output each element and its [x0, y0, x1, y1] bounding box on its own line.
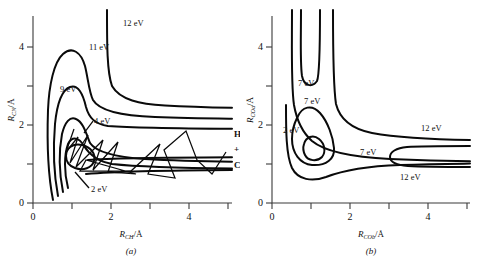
contour-label-7ev-second: 7 eV	[304, 96, 321, 106]
contour-label-11ev: 11 eV	[89, 42, 110, 52]
y-axis-unit: /Å	[245, 96, 255, 106]
x-ticklabel-0: 0	[270, 211, 275, 222]
x-axis-unit: /Å	[375, 229, 385, 239]
x-axis-subscript: COb	[363, 233, 375, 240]
panel-a-svg: 0 2 4 0 2 4	[0, 0, 240, 258]
contour-label-12ev-bottom: 12 eV	[400, 172, 421, 182]
y-ticklabel-4: 4	[19, 41, 24, 52]
contour-11ev	[48, 50, 232, 200]
x-ticklabel-4: 4	[187, 211, 192, 222]
contour-7ev-inner-u	[301, 10, 320, 85]
panel-a-caption: (a)	[126, 246, 137, 256]
panel-a-axis-titles: RCH/Å RCN/Å (a)	[6, 98, 143, 256]
contour-label-12ev-top: 12 eV	[421, 123, 442, 133]
y-ticklabel-2: 2	[19, 119, 24, 130]
leader-line-4ev	[84, 121, 93, 133]
panel-a-contours	[48, 10, 232, 200]
panel-b-caption: (b)	[366, 246, 377, 256]
x-ticklabel-2: 2	[348, 211, 353, 222]
x-axis-label: RCH/Å	[118, 229, 143, 240]
contour-2ev-inner-loop	[303, 137, 324, 161]
y-ticklabel-4: 4	[258, 41, 263, 52]
panel-b-svg: 0 2 4 0 2 4	[240, 0, 478, 258]
figure-container: 0 2 4 0 2 4	[0, 0, 478, 258]
y-ticklabel-2: 2	[258, 119, 263, 130]
panel-a-axes	[27, 16, 232, 209]
y-ticklabel-0: 0	[258, 197, 263, 208]
axis-lines	[33, 16, 232, 203]
y-axis-subscript: COa	[249, 106, 256, 118]
y-axis-label: RCN/Å	[6, 98, 17, 122]
contour-label-7ev-top: 7 eV	[298, 78, 315, 88]
contour-label-2ev: 2 eV	[91, 184, 108, 194]
y-ticklabel-0: 0	[19, 197, 24, 208]
y-axis-label: RCOa/Å	[245, 96, 256, 124]
x-axis-unit: /Å	[134, 229, 144, 239]
x-ticklabel-2: 2	[109, 211, 114, 222]
contour-12ev-elbow	[333, 10, 470, 140]
contour-2ev	[65, 139, 232, 188]
contour-label-4ev: 4 eV	[94, 116, 111, 126]
panel-b-contours	[286, 10, 470, 180]
y-axis-unit: /Å	[6, 98, 16, 108]
panel-a-tick-labels: 0 2 4 0 2 4	[19, 41, 192, 222]
contour-label-9ev: 9 eV	[60, 84, 77, 94]
x-ticklabel-4: 4	[426, 211, 431, 222]
contour-label-2ev: 2 eV	[283, 125, 300, 135]
product-label-plus: +	[234, 144, 239, 154]
x-ticklabel-0: 0	[31, 211, 36, 222]
x-axis-label: RCOb/Å	[357, 229, 385, 240]
contour-label-7ev-right: 7 eV	[360, 147, 377, 157]
contour-panel-a: 0 2 4 0 2 4	[0, 0, 240, 258]
contour-label-12ev: 12 eV	[123, 18, 144, 28]
contour-panel-b: 0 2 4 0 2 4	[240, 0, 478, 258]
panel-b-axis-titles: RCOb/Å RCOa/Å (b)	[245, 96, 385, 256]
